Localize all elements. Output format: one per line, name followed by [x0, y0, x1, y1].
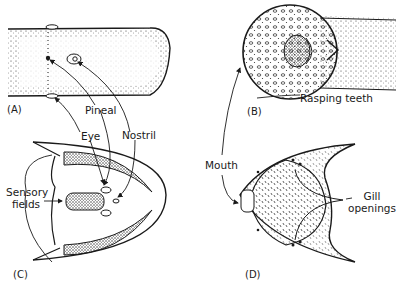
label-sensory-fields-line1: Sensory: [6, 186, 46, 198]
panel-a-head: [8, 25, 170, 98]
label-sensory-fields: Sensory fields: [6, 186, 46, 210]
label-gill-openings-line1: Gill: [348, 190, 396, 202]
panel-d-ventral: [240, 144, 355, 262]
diagram-artwork: [0, 0, 399, 285]
label-pineal: Pineal: [85, 104, 117, 116]
panel-c-head-outline: [25, 142, 166, 262]
label-sensory-fields-line2: fields: [6, 198, 46, 210]
label-mouth: Mouth: [205, 159, 238, 171]
panel-b-oral-disk: [243, 5, 396, 99]
label-gill-openings: Gill openings: [348, 190, 396, 214]
panel-label-c: (C): [13, 269, 28, 281]
label-gill-openings-line2: openings: [348, 202, 396, 214]
panel-label-a: (A): [7, 104, 22, 116]
label-rasping-teeth: Rasping teeth: [300, 92, 373, 104]
label-nostril: Nostril: [122, 129, 156, 141]
panel-label-b: (B): [247, 106, 262, 118]
label-eye: Eye: [81, 130, 100, 142]
panel-label-d: (D): [245, 269, 261, 281]
